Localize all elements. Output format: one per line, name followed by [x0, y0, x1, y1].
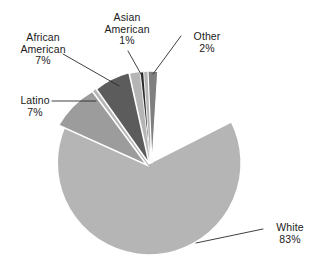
label-african-american-value: 7%: [6, 55, 80, 67]
pie-slices: [57, 71, 241, 255]
label-white-line1: White: [265, 222, 315, 234]
label-latino: Latino 7%: [6, 95, 64, 118]
label-other-line1: Other: [182, 31, 232, 43]
label-asian-american-value: 1%: [94, 35, 160, 47]
label-latino-value: 7%: [6, 107, 64, 119]
label-latino-line1: Latino: [6, 95, 64, 107]
label-asian-american: Asian American 1%: [94, 12, 160, 47]
label-african-american-line1: African: [6, 32, 80, 44]
label-white-value: 83%: [265, 234, 315, 246]
pie-chart-figure: African American 7% Asian American 1% Ot…: [0, 0, 320, 270]
label-white: White 83%: [265, 222, 315, 245]
label-asian-american-line1: Asian: [94, 12, 160, 24]
label-other: Other 2%: [182, 31, 232, 54]
label-other-value: 2%: [182, 43, 232, 55]
label-african-american: African American 7%: [6, 32, 80, 67]
